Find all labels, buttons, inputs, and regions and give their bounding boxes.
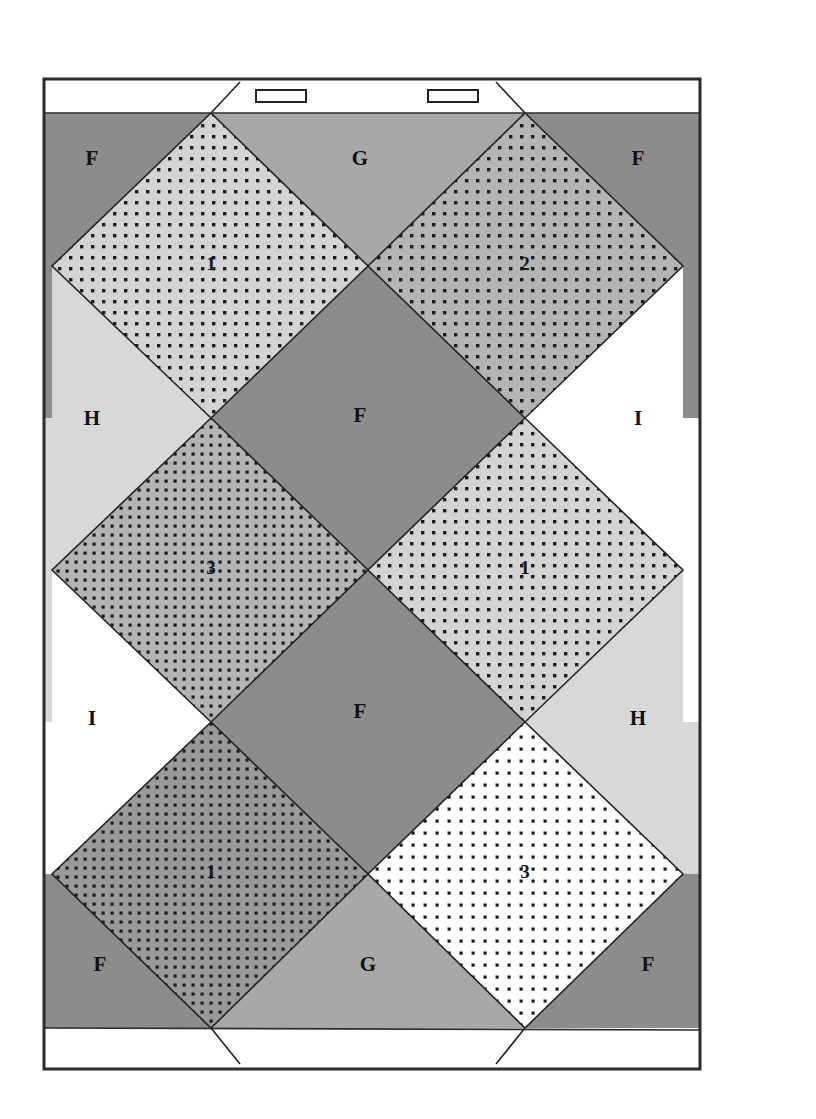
label-bg-bottom-right: F bbox=[642, 952, 655, 976]
label-bg-low-left: I bbox=[88, 706, 96, 730]
label-tile-r3-c2: 3 bbox=[520, 861, 530, 882]
quilt-pattern-diagram: F G F H F I I F H F G F 1 2 3 1 1 3 bbox=[0, 0, 816, 1119]
label-tile-r2-c2: 1 bbox=[520, 557, 530, 578]
figure-root: F G F H F I I F H F G F 1 2 3 1 1 3 bbox=[0, 0, 816, 1119]
notch-right[interactable] bbox=[428, 90, 478, 102]
label-bg-low-right: H bbox=[630, 706, 646, 730]
bottom-flap bbox=[45, 1028, 699, 1068]
top-flap bbox=[45, 80, 699, 113]
label-bg-bottom-left: F bbox=[94, 952, 107, 976]
label-bg-mid-right: I bbox=[634, 406, 642, 430]
label-bg-center-lower: F bbox=[354, 699, 367, 723]
label-tile-r2-c1: 3 bbox=[206, 557, 216, 578]
label-bg-top-center: G bbox=[352, 146, 368, 170]
label-tile-r1-c1: 1 bbox=[206, 253, 216, 274]
label-bg-top-right: F bbox=[632, 146, 645, 170]
label-bg-center-upper: F bbox=[354, 403, 367, 427]
label-tile-r1-c2: 2 bbox=[520, 253, 530, 274]
label-bg-bottom-center: G bbox=[360, 952, 376, 976]
label-tile-r3-c1: 1 bbox=[206, 861, 216, 882]
notch-left[interactable] bbox=[256, 90, 306, 102]
label-bg-top-left: F bbox=[86, 146, 99, 170]
label-bg-mid-left: H bbox=[84, 406, 100, 430]
